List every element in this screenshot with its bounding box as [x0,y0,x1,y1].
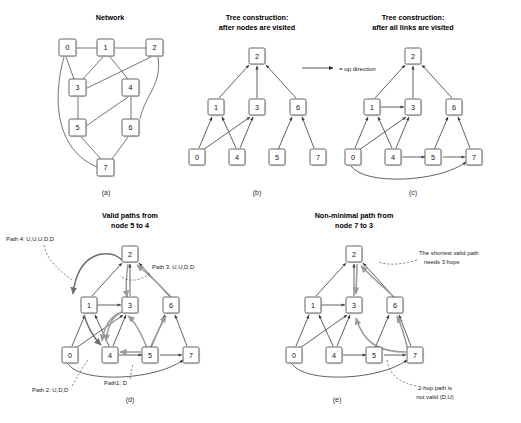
node-7[interactable]: 7 [97,159,115,177]
node-label: 7 [413,351,417,360]
node-3[interactable]: 3 [69,79,87,97]
panel-d-title-line2: node 5 to 4 [111,221,149,230]
path4-2-to-1 [73,254,122,294]
node-0[interactable]: 0 [286,347,303,364]
panel-b-title-line1: Tree construction: [226,13,289,22]
node-label: 7 [104,163,108,172]
legend-label: = up direction [339,65,376,72]
node-1[interactable]: 1 [97,39,115,57]
panel-a: Network 0 1 [58,13,164,197]
node-7[interactable]: 7 [466,149,483,166]
shortest-path-note-line2: needs 3 hops [424,259,459,265]
node-5[interactable]: 5 [142,347,159,364]
node-3[interactable]: 3 [405,99,422,116]
node-label: 1 [214,103,218,112]
node-0[interactable]: 0 [62,347,79,364]
node-label: 5 [275,153,279,162]
panel-c-title-line1: Tree construction: [382,13,445,22]
node-label: 0 [68,351,72,360]
node-7[interactable]: 7 [183,347,200,364]
node-4[interactable]: 4 [229,149,246,166]
node-label: 4 [108,351,112,360]
path-3-label: Path 3: U,U,D,D [152,264,194,270]
node-label: 5 [76,123,80,132]
valid-6-to-2 [361,266,394,297]
node-0[interactable]: 0 [345,149,362,166]
node-6[interactable]: 6 [446,99,463,116]
node-6[interactable]: 6 [387,297,404,314]
edge-0-7 [58,57,97,167]
node-3[interactable]: 3 [346,297,363,314]
edge-1-3 [83,57,103,79]
panel-d-letter: (d) [126,396,135,404]
node-2[interactable]: 2 [249,48,266,65]
node-label: 2 [411,52,415,61]
node-3[interactable]: 3 [249,99,266,116]
node-6[interactable]: 6 [163,297,180,314]
panel-b-title-line2: after nodes are visited [219,23,295,32]
node-1[interactable]: 1 [364,99,381,116]
node-label: 5 [372,351,376,360]
leader-path-4 [44,245,72,280]
node-7[interactable]: 7 [407,347,424,364]
arrow-5-to-6 [434,117,448,150]
node-label: 1 [104,43,108,52]
node-label: 3 [255,103,259,112]
node-label: 6 [169,301,173,310]
node-2[interactable]: 2 [146,39,164,57]
arrow-0-to-7 [351,162,466,179]
node-2[interactable]: 2 [346,246,363,263]
node-4[interactable]: 4 [122,79,140,97]
node-1[interactable]: 1 [208,99,225,116]
arrow-0-to-1 [355,117,368,148]
node-1[interactable]: 1 [305,297,322,314]
panel-b: Tree construction: after nodes are visit… [189,13,327,197]
arrow-6-to-2 [266,65,296,98]
panel-e-letter: (e) [333,396,342,404]
node-4[interactable]: 4 [102,347,119,364]
node-label: 4 [235,153,239,162]
arrow-1-to-2 [92,263,122,296]
invalid-path-note-line1: 2-hop path is [418,385,452,391]
node-4[interactable]: 4 [385,149,402,166]
edge-5-7 [81,137,101,159]
panel-e-annotations: The shortest valid path needs 3 hops 2-h… [378,250,479,400]
node-label: 6 [452,103,456,112]
panel-a-edges [58,48,159,167]
invalid-path-note-line2: not valid (D,U) [416,394,454,400]
node-label: 1 [311,301,315,310]
arrow-1-to-2 [219,65,249,98]
node-5[interactable]: 5 [269,149,286,166]
node-5[interactable]: 5 [425,149,442,166]
arrow-1-to-2 [316,263,346,296]
node-2[interactable]: 2 [122,246,139,263]
edge-2-6 [140,57,159,119]
shortest-path-note-line1: The shortest valid path [419,250,479,256]
node-4[interactable]: 4 [326,347,343,364]
node-label: 4 [332,351,336,360]
arrow-7-to-6 [175,315,187,346]
arrow-0-to-1 [199,117,212,148]
node-label: 3 [128,301,132,310]
node-7[interactable]: 7 [310,149,327,166]
leader-path-3 [120,273,150,280]
arrow-7-to-6 [458,117,470,148]
arrow-5-to-6 [278,117,292,150]
node-5[interactable]: 5 [69,119,87,137]
node-0[interactable]: 0 [59,39,77,57]
node-1[interactable]: 1 [81,297,98,314]
node-6[interactable]: 6 [122,119,140,137]
panel-e: Non-minimal path from node 7 to 3 [286,211,479,404]
node-6[interactable]: 6 [290,99,307,116]
node-0[interactable]: 0 [189,149,206,166]
edge-2-3 [87,57,151,88]
arrow-4-to-1 [378,117,392,148]
node-label: 6 [296,103,300,112]
node-label: 1 [87,301,91,310]
node-5[interactable]: 5 [366,347,383,364]
node-3[interactable]: 3 [122,297,139,314]
node-2[interactable]: 2 [405,48,422,65]
node-label: 0 [351,153,355,162]
path2-up-5-to-3 [128,316,147,348]
node-label: 6 [129,123,133,132]
